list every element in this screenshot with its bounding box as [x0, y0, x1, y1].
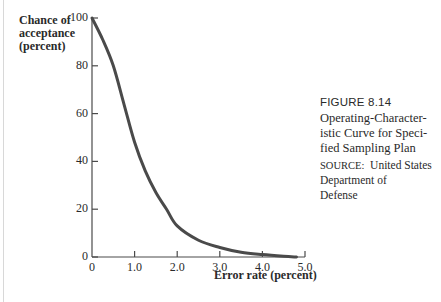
figure-caption: FIGURE 8.14 Operating-Character- istic C… — [320, 96, 440, 203]
oc-curve-line — [92, 18, 296, 257]
figure-title-line: fied Sampling Plan — [320, 141, 440, 156]
y-tick-label: 40 — [64, 153, 88, 168]
figure-title-line: istic Curve for Speci- — [320, 126, 440, 141]
y-tick-label: 20 — [64, 201, 88, 216]
y-tick-label: 80 — [64, 58, 88, 73]
figure-source: SOURCE: United States Department of Defe… — [320, 158, 440, 203]
source-label: SOURCE: — [320, 160, 364, 171]
figure-title: Operating-Character- istic Curve for Spe… — [320, 111, 440, 156]
x-axis-label: Error rate (percent) — [214, 268, 317, 283]
y-tick-label: 60 — [64, 106, 88, 121]
source-line: United States — [370, 159, 432, 171]
figure-number: FIGURE 8.14 — [320, 96, 440, 108]
x-tick-label: 1.0 — [120, 260, 150, 275]
x-tick-label: 0 — [77, 260, 107, 275]
source-line: Department of — [320, 173, 440, 188]
figure-title-line: Operating-Character- — [320, 111, 440, 126]
y-tick-label: 100 — [64, 10, 88, 25]
source-line: Defense — [320, 188, 440, 203]
axes — [92, 18, 305, 257]
x-tick-label: 2.0 — [162, 260, 192, 275]
